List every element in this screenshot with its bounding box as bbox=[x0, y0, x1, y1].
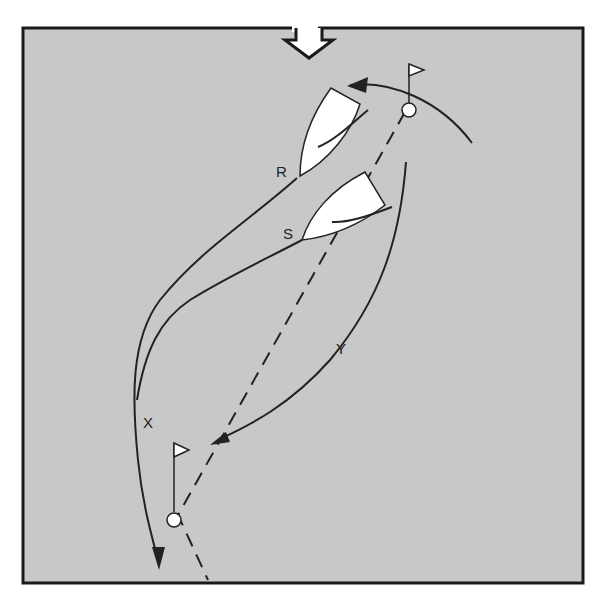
rounding-diagram: R S Y X bbox=[0, 0, 597, 606]
label-x: X bbox=[143, 414, 153, 431]
label-y: Y bbox=[336, 340, 346, 357]
label-s: S bbox=[283, 225, 293, 242]
label-r: R bbox=[276, 163, 287, 180]
diagram-frame bbox=[23, 28, 583, 583]
